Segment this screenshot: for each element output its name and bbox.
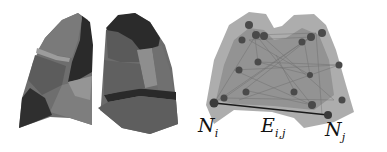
left-lung bbox=[19, 13, 93, 128]
graph-node bbox=[299, 39, 306, 46]
graph-node bbox=[291, 89, 298, 96]
lung-graph-image bbox=[194, 0, 387, 152]
graph-node bbox=[252, 31, 260, 39]
graph-node bbox=[243, 89, 250, 96]
graph-node bbox=[255, 59, 262, 66]
label-edge-ij: Ei,j bbox=[261, 116, 285, 139]
graph-node bbox=[236, 67, 243, 74]
right-lung bbox=[98, 13, 178, 134]
segmented-lungs-panel bbox=[0, 0, 194, 152]
graph-node bbox=[339, 97, 346, 104]
label-base: N bbox=[198, 114, 215, 136]
graph-node bbox=[307, 33, 315, 41]
label-sub: i bbox=[215, 127, 219, 140]
graph-node bbox=[245, 21, 253, 29]
graph-node bbox=[336, 62, 343, 69]
graph-node bbox=[307, 72, 313, 78]
graph-node bbox=[221, 95, 228, 102]
graph-node bbox=[318, 29, 326, 37]
label-sub: i,j bbox=[275, 127, 285, 140]
label-sub: j bbox=[342, 131, 345, 144]
lung-graph-panel: Ni Ei,j Nj bbox=[194, 0, 387, 152]
label-base: E bbox=[261, 114, 275, 136]
segmented-lungs-image bbox=[0, 0, 194, 152]
label-node-j: Nj bbox=[325, 120, 345, 143]
graph-node bbox=[260, 32, 268, 40]
graph-node bbox=[239, 37, 246, 44]
graph-node bbox=[308, 101, 316, 109]
label-node-i: Ni bbox=[198, 116, 218, 139]
node-n-i bbox=[210, 99, 219, 108]
label-base: N bbox=[325, 118, 342, 140]
